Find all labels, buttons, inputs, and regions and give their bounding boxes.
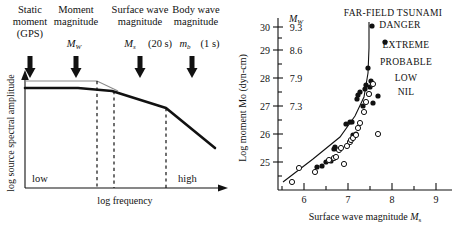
header-symbol: mb <box>179 38 191 51</box>
pointer-arrows <box>25 56 198 78</box>
svg-text:25: 25 <box>260 157 270 168</box>
svg-text:7.9: 7.9 <box>290 73 303 84</box>
svg-text:7: 7 <box>346 194 351 205</box>
header-surface-wave-magnitude: Surface wave magnitude Ms (20 s) <box>112 4 173 51</box>
header-symbol-extra: (20 s) <box>148 38 173 50</box>
svg-text:9: 9 <box>434 194 439 205</box>
danger-level-low: LOW <box>395 73 418 83</box>
header-symbol: Ms <box>123 38 136 51</box>
header-line-1: Body wave <box>172 4 220 15</box>
panel-a-svg: Static moment (GPS) Moment magnitude MW … <box>0 0 230 231</box>
header-line-1: Surface wave <box>112 4 169 15</box>
panel-tsunami-danger: MW FAR-FIELD TSUNAMI DANGER EXTREME PROB… <box>230 0 459 231</box>
panel-a-xlabel: log frequency <box>97 195 152 206</box>
header-line-3: (GPS) <box>17 28 44 40</box>
danger-title-line-1: FAR-FIELD TSUNAMI <box>344 8 442 18</box>
header-line-2: magnitude <box>54 16 99 27</box>
panel-a-ylabel: log source spectral amplitude <box>5 74 16 192</box>
header-line-1: Static <box>18 4 42 15</box>
header-body-wave-magnitude: Body wave magnitude mb (1 s) <box>172 4 220 51</box>
x-axis-tick-labels: 6 7 8 9 <box>302 194 439 205</box>
svg-text:30: 30 <box>260 22 270 33</box>
svg-text:8: 8 <box>390 194 395 205</box>
svg-text:9.3: 9.3 <box>290 22 303 33</box>
down-arrow-icon-mw <box>71 56 82 78</box>
danger-level-extreme: EXTREME <box>383 40 430 50</box>
svg-text:27: 27 <box>260 101 270 112</box>
danger-title-line-2: DANGER <box>379 20 421 30</box>
y-axis-tick-labels: 25 26 27 28 29 30 <box>260 22 270 168</box>
header-line-2: moment <box>13 16 47 27</box>
header-symbol-extra: (1 s) <box>201 38 220 50</box>
high-label: high <box>178 173 197 184</box>
header-symbol: MW <box>66 38 83 51</box>
panel-source-spectrum: Static moment (GPS) Moment magnitude MW … <box>0 0 230 231</box>
panel-b-xlabel: Surface wave magnitude Ms <box>309 211 422 224</box>
header-static-moment: Static moment (GPS) <box>13 4 47 40</box>
svg-text:6: 6 <box>302 194 307 205</box>
panel-b-svg: MW FAR-FIELD TSUNAMI DANGER EXTREME PROB… <box>230 0 459 231</box>
x-axis-ticks <box>282 183 436 190</box>
danger-level-nil: NIL <box>398 87 415 97</box>
header-line-2: magnitude <box>174 16 219 27</box>
down-arrow-icon-ms <box>135 56 146 78</box>
low-label: low <box>32 173 48 184</box>
danger-level-probable: PROBABLE <box>380 57 432 67</box>
down-arrow-icon-mb <box>187 56 198 78</box>
svg-text:29: 29 <box>260 45 270 56</box>
svg-text:7.3: 7.3 <box>290 101 303 112</box>
header-moment-magnitude: Moment magnitude MW <box>54 4 99 51</box>
scatter-open-circles <box>289 81 380 184</box>
panel-b-ylabel: Log moment Mo (dyn-cm) <box>237 54 249 161</box>
source-spectrum-curve <box>25 88 215 148</box>
svg-text:28: 28 <box>260 73 270 84</box>
header-line-2: magnitude <box>118 16 163 27</box>
mw-scale-labels: 7.3 7.9 8.6 9.3 <box>290 22 303 112</box>
svg-text:26: 26 <box>260 129 270 140</box>
header-line-1: Moment <box>58 4 94 15</box>
figure-root: Static moment (GPS) Moment magnitude MW … <box>0 0 459 231</box>
scatter-filled-circles <box>314 23 387 169</box>
svg-text:8.6: 8.6 <box>290 45 303 56</box>
